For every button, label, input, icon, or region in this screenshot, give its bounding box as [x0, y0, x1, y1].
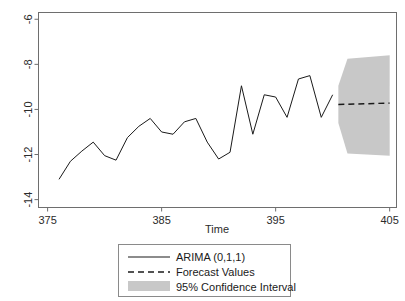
y-axis-tick-label: -8: [22, 59, 34, 69]
arima-forecast-chart: -6-8-10-12-14 375385395405 Time ARIMA (0…: [0, 0, 405, 301]
legend-label-confidence: 95% Confidence Interval: [176, 281, 296, 293]
x-axis-title: Time: [205, 223, 229, 235]
x-axis-tick-label: 395: [266, 214, 284, 226]
chart-figure: -6-8-10-12-14 375385395405 Time ARIMA (0…: [0, 0, 405, 301]
chart-legend: ARIMA (0,1,1) Forecast Values 95% Confid…: [119, 245, 296, 297]
legend-label-arima: ARIMA (0,1,1): [176, 251, 245, 263]
y-axis-tick-label: -10: [22, 101, 34, 117]
x-axis-tick-label: 375: [38, 214, 56, 226]
y-axis-tick-label: -14: [22, 192, 34, 208]
legend-swatch-icon: [128, 281, 170, 291]
y-axis-tick-label: -6: [22, 14, 34, 24]
legend-label-forecast: Forecast Values: [176, 266, 255, 278]
x-axis-tick-label: 385: [152, 214, 170, 226]
y-axis-tick-label: -12: [22, 147, 34, 163]
confidence-interval-band: [338, 55, 389, 155]
x-axis-tick-label: 405: [380, 214, 398, 226]
